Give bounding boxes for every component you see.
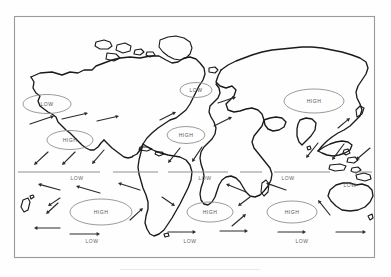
coastline-middle-east [264, 117, 286, 131]
arrow-na-3-shaft [218, 98, 233, 103]
arrow-se-trade1-shaft [51, 198, 60, 204]
arrow-na-2-shaft [214, 119, 229, 126]
arrow-np-3-shaft [97, 117, 116, 121]
pressure-wind-map-figure: LOWLOWHIGHHIGHHIGHHIGHHIGHHIGH LOWLOWLOW… [0, 0, 391, 277]
pressure-label-low-australia: LOW [343, 182, 356, 188]
arrow-sh-west4-head [303, 230, 306, 234]
arrow-np-out2-shaft [64, 152, 75, 163]
arrow-sh-west5-head [363, 230, 366, 234]
arrow-np-2-shaft [62, 114, 85, 119]
arrow-se-ret2-shaft [232, 216, 243, 226]
island-arctic-4 [134, 49, 144, 55]
island-madagascar [261, 180, 269, 196]
arrow-sw-left1-head [34, 226, 37, 230]
arrow-np-1-shaft [30, 117, 51, 124]
pressure-label-low-equator-indian: LOW [281, 175, 294, 181]
pressure-label-low-south-atlantic: LOW [183, 238, 196, 244]
arrow-aus-2-shaft [359, 148, 370, 158]
pressure-label-high-north-pacific: HIGH [63, 137, 78, 143]
arrow-sh-west3-head [245, 229, 248, 233]
arrow-np-2-head [84, 112, 88, 116]
arrow-asia-1-shaft [338, 120, 347, 128]
pressure-label-high-north-atlantic: HIGH [179, 132, 194, 138]
pressure-label-low-equator-pacific: LOW [70, 175, 83, 181]
island-iceland [209, 67, 218, 73]
arrow-aus-1-shaft [320, 203, 330, 215]
wind-arrows-group [30, 96, 370, 236]
world-map-svg: LOWLOWHIGHHIGHHIGHHIGHHIGHHIGH LOWLOWLOW… [0, 0, 391, 277]
island-falklands [164, 233, 169, 237]
arrow-np-out1-shaft [36, 152, 48, 163]
island-new-zealand [368, 214, 373, 220]
island-sri-lanka [307, 146, 311, 150]
coastline-india [297, 118, 316, 145]
arrow-ne-trade1-shaft [41, 185, 60, 190]
island-arctic-1 [95, 40, 112, 49]
arrow-ne-trade3-shaft [121, 184, 140, 190]
arrow-se-trade3-shaft [241, 197, 250, 204]
arrow-sh-west1-head [97, 232, 100, 236]
island-galapagos [21, 198, 30, 212]
coastline-north-america [31, 56, 205, 156]
island-indonesia-1 [329, 164, 346, 171]
pressure-cells-group: LOWLOWHIGHHIGHHIGHHIGHHIGHHIGH [23, 83, 344, 226]
arrow-np-3-head [115, 115, 119, 119]
island-japan [356, 106, 364, 117]
pressure-label-low-south-pacific: LOW [85, 238, 98, 244]
footer-rule [120, 269, 260, 270]
coastline-central-america [104, 140, 133, 158]
pressure-label-high-south-atlantic: HIGH [203, 209, 218, 215]
pressure-label-low-north-atlantic: LOW [189, 87, 202, 93]
pressure-label-high-south-pacific: HIGH [94, 209, 109, 215]
coastline-europe-west [200, 70, 272, 205]
island-arctic-2 [116, 43, 131, 53]
coastline-se-asia [318, 141, 352, 156]
island-new-guinea [356, 173, 371, 181]
arrow-na-out1-shaft [170, 148, 180, 160]
coastline-south-america [138, 144, 192, 236]
pressure-label-high-indian-ocean: HIGH [285, 209, 300, 215]
island-hawaii [30, 195, 34, 199]
pressure-label-low-north-pacific: LOW [40, 101, 53, 107]
arrow-ne-trade5-shaft [269, 184, 286, 190]
arrow-ne-trade2-head [76, 185, 80, 189]
arrow-se-trade2-shaft [162, 197, 172, 204]
arrow-np-out3-shaft [94, 150, 104, 161]
arrow-ne-trade1-head [38, 183, 42, 187]
arrow-ne-trade2-shaft [79, 187, 100, 193]
arrow-sh-west2-head [193, 230, 196, 234]
coastline-eurasia-africa [221, 47, 368, 151]
island-indonesia-2 [347, 157, 358, 163]
coastline-greenland [159, 36, 192, 60]
pressure-label-low-south-indian: LOW [295, 238, 308, 244]
pressure-label-high-asia: HIGH [307, 98, 322, 104]
pressure-label-low-equator-atlantic: LOW [198, 175, 211, 181]
